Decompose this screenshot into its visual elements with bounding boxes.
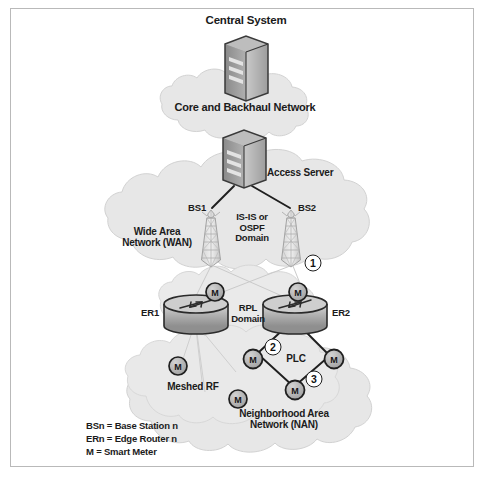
svg-text:M: M (330, 355, 338, 365)
diagram-page: M M M M M M M Central System Core and Ba… (0, 0, 485, 477)
smart-meter-plc-1: M (244, 350, 263, 369)
label-er2: ER2 (332, 308, 350, 319)
label-meshed-rf: Meshed RF (167, 381, 219, 392)
smart-meter-plc-2: M (325, 350, 344, 369)
label-plc: PLC (286, 353, 305, 364)
access-server (223, 130, 266, 188)
svg-text:M: M (174, 362, 182, 372)
label-bs2: BS2 (298, 203, 316, 214)
label-wide-area-network: Wide Area Network (WAN) (122, 226, 192, 248)
label-core-backhaul-network: Core and Backhaul Network (174, 101, 315, 113)
svg-text:M: M (234, 395, 242, 405)
label-er1: ER1 (141, 308, 159, 319)
callout-marker-1: 1 (305, 255, 322, 272)
label-neighborhood-area-network: Neighborhood Area Network (NAN) (239, 408, 329, 430)
svg-text:M: M (294, 288, 302, 298)
label-isis-ospf-domain: IS-IS or OSPF Domain (235, 212, 269, 244)
callout-marker-3: 3 (306, 371, 323, 388)
svg-text:M: M (249, 355, 257, 365)
callout-marker-2: 2 (265, 339, 282, 356)
smart-meter-plc-3: M (286, 381, 305, 400)
svg-text:M: M (291, 386, 299, 396)
svg-text:M: M (211, 288, 219, 298)
label-rpl-domain: RPL Domain (231, 303, 265, 324)
label-access-server: Access Server (267, 167, 333, 178)
central-system-server (225, 36, 268, 101)
smart-meter-mesh-2: M (229, 390, 247, 408)
smart-meter-mesh-1: M (169, 357, 187, 375)
legend: BSn = Base Station n ERn = Edge Router n… (86, 419, 178, 458)
smart-meter-er2-top: M (289, 283, 307, 301)
smart-meter-er1-top: M (206, 283, 224, 301)
label-central-system: Central System (206, 14, 287, 27)
label-bs1: BS1 (188, 203, 206, 214)
